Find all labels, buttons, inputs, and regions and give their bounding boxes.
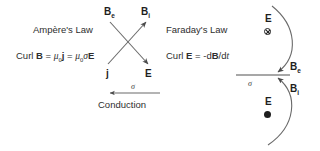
cross-label-j-symbol: j — [106, 68, 109, 79]
cross-label-be-subscript: e — [111, 12, 115, 19]
ampere-law-title: Ampère's Law — [33, 25, 93, 35]
conduction-sigma-label: σ — [131, 82, 135, 91]
field-into-page-icon — [264, 28, 271, 35]
cross-label-bi-subscript: i — [148, 12, 150, 19]
faraday-rhs-prefix: -d — [203, 50, 211, 61]
right-bottom-e-label: E — [265, 97, 272, 107]
faraday-law-equation: Curl E = -dB/dt — [166, 51, 229, 62]
ampere-law-equation: Curl B = μ0j = μ0σE — [16, 51, 94, 63]
ampere-curl-field: B — [36, 50, 43, 61]
cross-label-j: j — [106, 69, 109, 82]
faraday-t-variable: t — [227, 51, 230, 61]
cross-label-e: E — [145, 69, 152, 82]
cross-label-bi: Bi — [141, 7, 150, 20]
conduction-caption: Conduction — [98, 99, 146, 110]
faraday-slash: /d — [219, 50, 227, 61]
right-top-e-label: E — [265, 14, 272, 24]
ampere-curl-word: Curl — [16, 50, 33, 61]
arrow-be-to-e — [110, 22, 148, 64]
electromagnetism-diagram: Ampère's Law Curl B = μ0j = μ0σE Be Bi j… — [0, 0, 320, 151]
cross-label-e-symbol: E — [145, 68, 152, 79]
faraday-b-field: B — [212, 50, 219, 61]
arrow-j-to-bi — [108, 22, 146, 64]
field-out-of-page-icon — [264, 111, 271, 118]
diagram-vector-layer — [0, 0, 320, 151]
cross-label-be: Be — [104, 7, 115, 20]
arc-label-be: Be — [290, 62, 301, 75]
conductor-sigma-label: σ — [248, 79, 252, 88]
ampere-e-field: E — [88, 50, 94, 61]
arc-label-bi: Bi — [290, 84, 299, 97]
faraday-curl-word: Curl — [166, 50, 183, 61]
faraday-law-title: Faraday's Law — [166, 25, 227, 35]
arc-label-bi-subscript: i — [297, 89, 299, 96]
arc-bi-lower — [268, 78, 292, 145]
arc-label-be-subscript: e — [297, 67, 301, 74]
